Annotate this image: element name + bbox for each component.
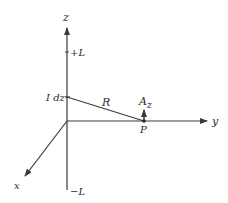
x-axis: [25, 121, 67, 176]
x-axis-label: x: [14, 180, 20, 191]
y-axis-label: y: [211, 115, 219, 128]
point-P-label: P: [139, 124, 147, 135]
minus-L-label: −L: [70, 186, 85, 197]
plus-L-label: +L: [70, 47, 85, 58]
z-axis-label: z: [62, 11, 69, 24]
distance-R-label: R: [101, 96, 110, 109]
current-element-label: I dz: [45, 92, 66, 103]
diagram-canvas: z y x +L −L I dz R P Az: [0, 0, 228, 203]
vector-potential-label: Az: [138, 95, 152, 110]
vector-potential-subscript: z: [146, 100, 152, 110]
vector-potential-symbol: A: [138, 95, 147, 108]
